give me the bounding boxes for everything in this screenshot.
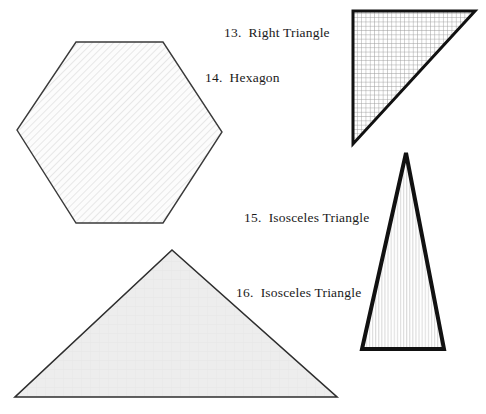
shape-isosceles-triangle-narrow	[362, 153, 444, 349]
label-hexagon: 14. Hexagon	[205, 71, 280, 85]
label-isosceles-triangle-narrow: 15. Isosceles Triangle	[244, 211, 369, 225]
shape-right-triangle	[353, 11, 475, 144]
label-isosceles-triangle-wide: 16. Isosceles Triangle	[236, 286, 361, 300]
geometry-figure-canvas	[0, 0, 486, 414]
shape-hexagon	[17, 42, 222, 223]
shape-isosceles-triangle-wide	[15, 250, 337, 397]
label-right-triangle: 13. Right Triangle	[224, 26, 330, 40]
